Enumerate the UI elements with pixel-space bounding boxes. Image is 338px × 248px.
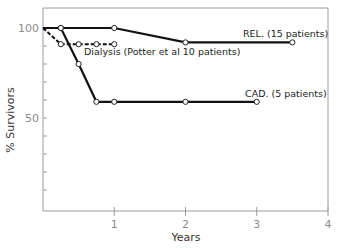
series-label: REL. (15 patients) <box>243 28 328 39</box>
data-point-marker <box>254 99 259 104</box>
x-axis-label: Years <box>170 231 200 244</box>
series-line-2 <box>43 28 257 102</box>
data-point-marker <box>112 25 117 30</box>
y-tick-label: 50 <box>25 112 39 125</box>
data-point-marker <box>58 25 63 30</box>
survival-chart: 10050 1234 REL. (15 patients)Dialysis (P… <box>0 0 338 248</box>
data-point-marker <box>290 40 295 45</box>
series-label: Dialysis (Potter et al 10 patients) <box>84 46 240 57</box>
series-label: CAD. (5 patients) <box>245 88 327 99</box>
y-tick-label: 100 <box>18 22 39 35</box>
x-tick-label: 1 <box>111 218 118 231</box>
x-tick-label: 2 <box>182 218 189 231</box>
data-point-marker <box>76 61 81 66</box>
data-point-marker <box>183 99 188 104</box>
data-point-marker <box>76 42 81 47</box>
data-point-marker <box>58 42 63 47</box>
series-labels: REL. (15 patients)Dialysis (Potter et al… <box>84 28 328 99</box>
data-point-marker <box>112 99 117 104</box>
x-tick-label: 3 <box>253 218 260 231</box>
data-point-marker <box>94 99 99 104</box>
x-tick-label: 4 <box>325 218 332 231</box>
data-point-marker <box>183 40 188 45</box>
y-axis-label: % Survivors <box>4 87 17 153</box>
